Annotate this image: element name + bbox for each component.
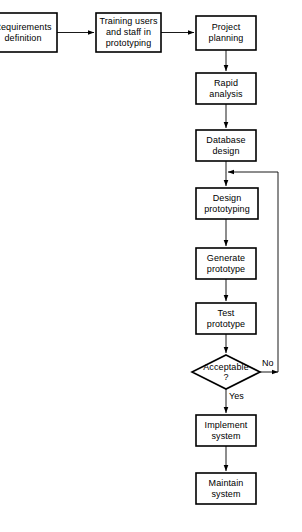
flowchart-canvas [0, 0, 302, 532]
node-maintain-system [196, 473, 256, 504]
node-design-prototyping [196, 188, 258, 219]
node-rapid-analysis [196, 73, 256, 104]
edge-label-yes: Yes [229, 391, 244, 401]
node-database-design [196, 130, 256, 161]
node-acceptable-decision [192, 355, 260, 389]
node-implement-system [196, 415, 256, 446]
node-training-users [96, 13, 161, 52]
node-generate-prototype [196, 248, 256, 279]
node-project-planning [196, 16, 256, 50]
node-requirements-definition [0, 13, 57, 52]
node-test-prototype [196, 303, 256, 334]
edge-label-no: No [262, 358, 274, 368]
